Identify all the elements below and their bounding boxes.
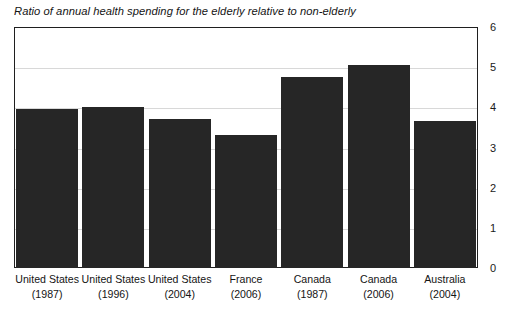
x-axis-category-year: (2004) bbox=[412, 287, 478, 302]
x-axis-category-year: (2004) bbox=[147, 287, 213, 302]
x-axis-category-year: (1996) bbox=[80, 287, 146, 302]
x-axis-category-year: (1987) bbox=[279, 287, 345, 302]
x-axis-category-name: United States bbox=[80, 272, 146, 287]
x-axis-category-name: United States bbox=[147, 272, 213, 287]
bar[interactable] bbox=[16, 109, 78, 268]
bar[interactable] bbox=[215, 135, 277, 268]
bar[interactable] bbox=[281, 77, 343, 268]
x-axis-category-name: France bbox=[213, 272, 279, 287]
y-axis-tick-label: 2 bbox=[490, 182, 496, 193]
x-axis-category-label: Canada(1987) bbox=[279, 272, 345, 301]
x-axis-category-year: (2006) bbox=[345, 287, 411, 302]
x-axis-category-name: Australia bbox=[412, 272, 478, 287]
y-axis-tick-label: 3 bbox=[490, 142, 496, 153]
bar[interactable] bbox=[82, 107, 144, 268]
bar-chart: Ratio of annual health spending for the … bbox=[0, 0, 522, 318]
x-axis-category-year: (2006) bbox=[213, 287, 279, 302]
y-axis-tick-label: 4 bbox=[490, 102, 496, 113]
bar[interactable] bbox=[348, 65, 410, 268]
y-axis-tick-label: 6 bbox=[490, 22, 496, 33]
x-axis-category-label: Canada(2006) bbox=[345, 272, 411, 301]
x-axis-category-label: United States(1996) bbox=[80, 272, 146, 301]
x-axis: United States(1987)United States(1996)Un… bbox=[14, 272, 478, 316]
bar[interactable] bbox=[414, 121, 476, 268]
y-axis-tick-label: 0 bbox=[490, 263, 496, 274]
y-axis-tick-label: 1 bbox=[490, 222, 496, 233]
x-axis-category-name: Canada bbox=[345, 272, 411, 287]
x-axis-category-label: United States(1987) bbox=[14, 272, 80, 301]
x-axis-category-name: United States bbox=[14, 272, 80, 287]
y-axis: 0123456 bbox=[482, 27, 520, 268]
x-axis-category-label: United States(2004) bbox=[147, 272, 213, 301]
y-axis-tick-label: 5 bbox=[490, 62, 496, 73]
x-axis-category-label: Australia(2004) bbox=[412, 272, 478, 301]
x-axis-category-name: Canada bbox=[279, 272, 345, 287]
x-axis-category-year: (1987) bbox=[14, 287, 80, 302]
bars-container bbox=[14, 27, 478, 268]
bar[interactable] bbox=[149, 119, 211, 268]
x-axis-category-label: France(2006) bbox=[213, 272, 279, 301]
chart-title: Ratio of annual health spending for the … bbox=[14, 5, 356, 17]
